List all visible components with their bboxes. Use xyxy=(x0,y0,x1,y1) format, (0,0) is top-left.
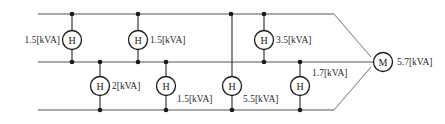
dot-bot-3 xyxy=(230,108,235,113)
load-node-h-bot-4: H xyxy=(291,77,310,96)
diagram-canvas: HHHHHHHM 1.5[kVA]1.5[kVA]3.5[kVA]2[kVA]1… xyxy=(0,0,445,124)
dot-mid-5 xyxy=(262,60,267,65)
top-taper xyxy=(334,14,371,57)
dot-top-4 xyxy=(262,12,267,17)
dot-top-1 xyxy=(70,12,75,17)
rating-label-h-bot-4: 1.7[kVA] xyxy=(312,68,347,78)
load-node-letter-h-bot-1: H xyxy=(96,81,103,92)
main-node-M: M xyxy=(374,53,393,72)
load-node-letter-h-top-2: H xyxy=(134,35,141,46)
dot-top-2 xyxy=(136,12,141,17)
rating-label-h-top-3: 3.5[kVA] xyxy=(276,35,311,45)
load-node-letter-h-top-3: H xyxy=(260,35,267,46)
main-node-letter: M xyxy=(379,57,388,68)
rating-label-h-bot-2: 1.5[kVA] xyxy=(177,94,212,104)
load-node-h-top-1: H xyxy=(63,31,82,50)
rating-label-h-bot-3: 5.5[kVA] xyxy=(243,94,278,104)
rating-label-h-top-1: 1.5[kVA] xyxy=(25,35,60,45)
dot-mid-1 xyxy=(70,60,75,65)
dot-top-3 xyxy=(229,12,234,17)
dot-mid-6 xyxy=(298,60,303,65)
dot-mid-3 xyxy=(136,60,141,65)
load-node-h-top-3: H xyxy=(255,31,274,50)
dot-bot-1 xyxy=(98,108,103,113)
dot-mid-2 xyxy=(98,60,103,65)
load-node-letter-h-bot-3: H xyxy=(228,81,235,92)
load-node-letter-h-top-1: H xyxy=(68,35,75,46)
load-node-h-bot-1: H xyxy=(91,77,110,96)
load-node-letter-h-bot-4: H xyxy=(296,81,303,92)
single-line-diagram: HHHHHHHM 1.5[kVA]1.5[kVA]3.5[kVA]2[kVA]1… xyxy=(0,0,445,124)
dot-bot-4 xyxy=(298,108,303,113)
load-node-h-bot-3: H xyxy=(223,77,242,96)
load-node-h-bot-2: H xyxy=(157,77,176,96)
dot-bot-2 xyxy=(164,108,169,113)
load-node-letter-h-bot-2: H xyxy=(162,81,169,92)
load-node-h-top-2: H xyxy=(129,31,148,50)
dot-mid-4 xyxy=(164,60,169,65)
rating-label-h-top-2: 1.5[kVA] xyxy=(150,35,185,45)
rating-label-main-node: 5.7[kVA] xyxy=(397,57,432,67)
rating-label-h-bot-1: 2[kVA] xyxy=(112,81,140,91)
